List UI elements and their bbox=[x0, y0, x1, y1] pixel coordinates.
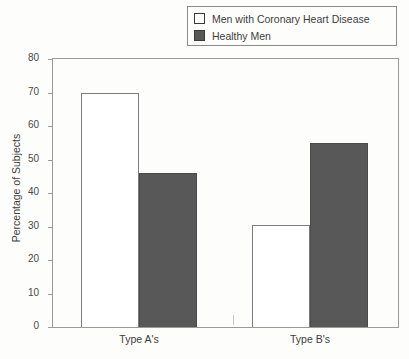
y-tick-mark bbox=[48, 193, 53, 194]
y-tick-mark bbox=[48, 260, 53, 261]
y-tick-mark bbox=[48, 327, 53, 328]
plot-inner bbox=[53, 59, 398, 327]
y-tick-label: 70 bbox=[0, 87, 46, 97]
legend-item-healthy: Healthy Men bbox=[194, 27, 396, 44]
y-tick-mark bbox=[48, 93, 53, 94]
bar-type-a-coronary bbox=[81, 93, 139, 328]
bar-type-a-healthy bbox=[139, 173, 197, 327]
bar-chart: Men with Coronary Heart Disease Healthy … bbox=[0, 0, 409, 359]
x-tick-label-type-a: Type A's bbox=[79, 333, 199, 345]
open-square-swatch-icon bbox=[194, 13, 205, 24]
y-tick-label: 50 bbox=[0, 154, 46, 164]
plot-area bbox=[52, 58, 399, 328]
legend-item-label: Men with Coronary Heart Disease bbox=[212, 13, 370, 25]
bar-type-b-healthy bbox=[310, 143, 368, 327]
y-tick-mark bbox=[48, 160, 53, 161]
chart-legend: Men with Coronary Heart Disease Healthy … bbox=[187, 6, 397, 46]
scan-artifact bbox=[233, 315, 234, 325]
y-tick-label: 0 bbox=[0, 321, 46, 331]
y-tick-label: 10 bbox=[0, 288, 46, 298]
legend-item-coronary: Men with Coronary Heart Disease bbox=[194, 10, 396, 27]
x-tick-label-type-b: Type B's bbox=[250, 333, 370, 345]
filled-square-swatch-icon bbox=[194, 30, 205, 41]
y-tick-label: 30 bbox=[0, 221, 46, 231]
bar-type-b-coronary bbox=[252, 225, 310, 327]
y-tick-label: 80 bbox=[0, 53, 46, 63]
y-axis-tick-labels: 01020304050607080 bbox=[0, 58, 46, 326]
y-tick-mark bbox=[48, 227, 53, 228]
y-tick-label: 40 bbox=[0, 187, 46, 197]
y-tick-mark bbox=[48, 294, 53, 295]
y-tick-mark bbox=[48, 126, 53, 127]
y-tick-mark bbox=[48, 59, 53, 60]
y-tick-label: 20 bbox=[0, 254, 46, 264]
legend-item-label: Healthy Men bbox=[212, 30, 271, 42]
y-tick-label: 60 bbox=[0, 120, 46, 130]
